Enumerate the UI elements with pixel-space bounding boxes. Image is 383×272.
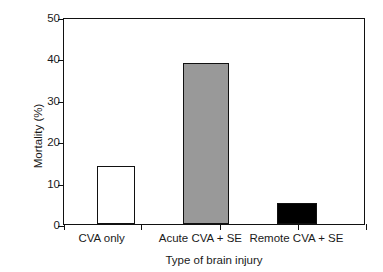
- x-tick-mark: [366, 224, 367, 230]
- plot-area: 01020304050: [63, 18, 365, 225]
- x-tick-mark: [298, 224, 299, 230]
- x-tick-mark: [220, 224, 221, 230]
- x-category-label: Remote CVA + SE: [249, 232, 343, 244]
- x-tick-mark: [141, 224, 142, 230]
- y-axis-title: Mortality (%): [32, 104, 44, 169]
- mortality-bar-chart: Mortality (%) 01020304050 CVA onlyAcute …: [0, 0, 383, 272]
- bar-remote-cva-se: [277, 203, 317, 224]
- bar-acute-cva-se: [183, 63, 228, 224]
- x-axis-title: Type of brain injury: [63, 254, 365, 266]
- y-tick-label: 10: [47, 179, 60, 191]
- y-tick-label: 0: [54, 220, 60, 232]
- y-tick-label: 50: [47, 13, 60, 25]
- y-tick-label: 20: [47, 137, 60, 149]
- x-category-label: Acute CVA + SE: [159, 232, 242, 244]
- y-tick-label: 40: [47, 55, 60, 67]
- y-tick-label: 30: [47, 96, 60, 108]
- x-tick-mark: [64, 224, 65, 230]
- bar-cva-only: [97, 166, 135, 224]
- x-category-label: CVA only: [78, 232, 124, 244]
